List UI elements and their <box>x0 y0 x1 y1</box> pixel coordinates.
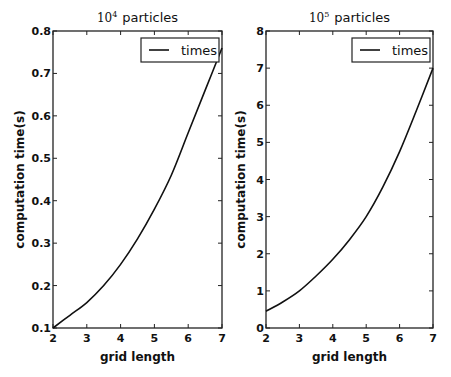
legend: times <box>352 38 430 62</box>
x-tick-label: 3 <box>83 332 91 345</box>
y-axis-label: computation time(s) <box>13 110 27 248</box>
y-tick-label: 0.5 <box>32 152 52 165</box>
y-tick-label: 0.7 <box>32 67 52 80</box>
chart-panel-1e4-particles: 104particles2345670.10.20.30.40.50.60.70… <box>13 10 226 364</box>
y-tick-label: 0.4 <box>32 195 52 208</box>
chart-panel-1e5-particles: 105particles234567012345678grid lengthco… <box>234 10 437 364</box>
y-tick-label: 0.8 <box>32 25 52 38</box>
y-axis-label: computation time(s) <box>234 110 248 248</box>
legend-label: times <box>181 43 217 58</box>
y-tick-label: 0.2 <box>32 280 52 293</box>
y-tick-label: 8 <box>256 25 264 38</box>
y-tick-label: 0.6 <box>32 110 52 123</box>
y-tick-label: 2 <box>256 248 264 261</box>
y-tick-label: 0 <box>256 322 264 335</box>
y-tick-label: 4 <box>256 174 264 187</box>
y-tick-label: 5 <box>256 136 264 149</box>
y-tick-label: 1 <box>256 285 264 298</box>
chart-title: 104particles <box>97 10 178 25</box>
y-tick-label: 0.3 <box>32 237 52 250</box>
y-tick-label: 3 <box>256 211 264 224</box>
legend: times <box>141 38 219 62</box>
x-tick-label: 4 <box>117 332 125 345</box>
x-tick-label: 7 <box>218 332 226 345</box>
x-tick-label: 7 <box>429 332 437 345</box>
legend-label: times <box>392 43 428 58</box>
x-tick-label: 6 <box>184 332 192 345</box>
figure: 104particles2345670.10.20.30.40.50.60.70… <box>0 0 451 377</box>
x-axis-label: grid length <box>312 350 387 364</box>
axes-frame <box>266 31 433 328</box>
x-tick-label: 6 <box>396 332 404 345</box>
chart-title: 105particles <box>309 10 390 25</box>
y-tick-label: 7 <box>256 62 264 75</box>
x-axis-label: grid length <box>100 350 175 364</box>
series-line-times <box>53 48 222 328</box>
x-tick-label: 4 <box>329 332 337 345</box>
series-line-times <box>266 68 433 311</box>
x-tick-label: 3 <box>296 332 304 345</box>
axes-frame <box>53 31 222 328</box>
y-tick-label: 0.1 <box>32 322 52 335</box>
x-tick-label: 5 <box>151 332 159 345</box>
y-tick-label: 6 <box>256 99 264 112</box>
x-tick-label: 5 <box>362 332 370 345</box>
